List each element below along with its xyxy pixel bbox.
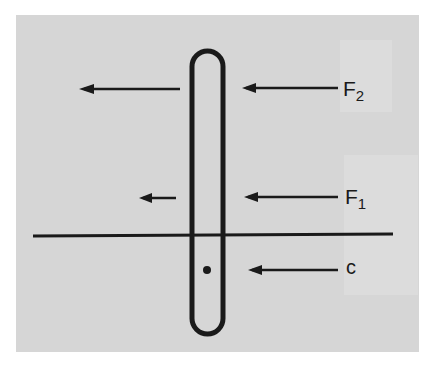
f2-arrowhead-icon [242,83,256,93]
motion-arrowhead-bottom-icon [139,193,152,203]
center-of-mass-dot [203,266,211,274]
label-f1: F1 [345,186,366,211]
diagram-drawing [0,0,436,368]
f1-arrowhead-icon [244,192,258,202]
axis-line [33,234,393,236]
c-arrowhead-icon [248,265,262,275]
motion-arrowhead-top-icon [79,84,94,94]
rod-outline [192,51,223,334]
label-f2: F2 [343,78,364,103]
label-c: c [346,257,356,277]
